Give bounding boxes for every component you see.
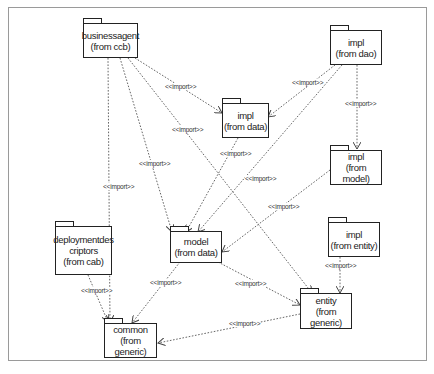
edge-model-common (132, 262, 180, 323)
package-entity[interactable]: entity(from generic) (300, 288, 352, 329)
package-name: impl (346, 229, 362, 240)
package-namespace: (from model) (331, 162, 381, 184)
edge-label: <<import>> (139, 160, 170, 167)
package-name-continued: criptors (69, 245, 98, 256)
edge-label: <<import>> (245, 175, 276, 182)
edge-label: <<import>> (292, 79, 323, 86)
package-deploymentdescriptors[interactable]: deploymentdescriptors(from cab) (55, 221, 112, 275)
edge-label: <<import>> (229, 320, 260, 327)
package-model[interactable]: model(from data) (170, 226, 222, 263)
edge-label: <<import>> (103, 183, 134, 190)
package-name: businessagent (82, 30, 139, 41)
edge-impldao-impldata (268, 65, 335, 117)
edge-label: <<import>> (220, 150, 251, 157)
package-namespace: (from cab) (63, 256, 103, 267)
package-namespace: (from data) (224, 121, 267, 132)
package-namespace: (from entity) (331, 240, 378, 251)
edge-deploy-common (88, 275, 108, 322)
package-impl-model[interactable]: impl(from model) (330, 145, 382, 185)
package-namespace: (from dao) (336, 48, 377, 59)
edge-label: <<import>> (325, 262, 356, 269)
package-namespace: (from ccb) (91, 41, 131, 52)
edge-label: <<import>> (150, 279, 181, 286)
edge-label: <<import>> (172, 126, 203, 133)
package-namespace: (from generic) (301, 306, 351, 328)
edge-label: <<import>> (235, 280, 266, 287)
package-name: impl (348, 151, 364, 162)
edge-implmodel-model (222, 170, 330, 252)
package-impl-entity[interactable]: impl(from entity) (328, 217, 380, 257)
edge-label: <<import>> (165, 83, 196, 90)
package-common[interactable]: common(from generic) (104, 318, 157, 358)
edge-label: <<import>> (345, 100, 376, 107)
package-name: impl (237, 110, 253, 121)
edge-label: <<import>> (268, 203, 299, 210)
package-businessagent[interactable]: businessagent(from ccb) (83, 18, 138, 58)
edge-entity-common (158, 314, 300, 343)
package-name: impl (348, 37, 364, 48)
edge-label: <<import>> (81, 287, 112, 294)
edge-businessagent-common (108, 58, 110, 322)
package-namespace: (from generic) (105, 335, 156, 357)
package-name: model (184, 236, 208, 247)
package-impl-dao[interactable]: impl(from dao) (330, 25, 382, 65)
package-name: entity (316, 295, 337, 306)
package-name: common (113, 324, 148, 335)
package-name: deploymentdes (53, 234, 114, 245)
package-namespace: (from data) (174, 247, 217, 258)
package-impl-data[interactable]: impl(from data) (222, 98, 269, 138)
